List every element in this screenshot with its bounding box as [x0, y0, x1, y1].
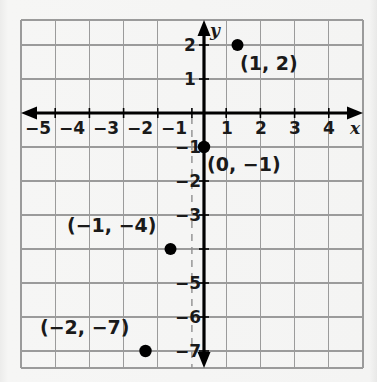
x-tick-label-neg5: −5 — [25, 120, 51, 137]
x-tick-label-1: 1 — [221, 120, 233, 137]
data-point-neg2-neg7[interactable] — [139, 345, 151, 357]
y-axis-name: y — [210, 22, 220, 39]
y-tick-label-neg5: −5 — [175, 275, 201, 292]
data-point-neg1-neg4[interactable] — [165, 243, 177, 255]
x-tick-label-neg1: −1 — [161, 120, 187, 137]
data-point-1-2[interactable] — [232, 39, 244, 51]
x-axis-name: x — [350, 120, 360, 137]
x-tick-label-4: 4 — [323, 120, 335, 137]
point-label-neg2-neg7: (−2, −7) — [40, 318, 129, 337]
x-tick-label-3: 3 — [289, 120, 301, 137]
y-tick-label-neg1: −1 — [175, 139, 201, 156]
point-label-1-2: (1, 2) — [240, 54, 298, 73]
y-tick-label-neg6: −6 — [175, 309, 201, 326]
point-label-0-neg1: (0, −1) — [207, 155, 281, 174]
y-axis-up-arrow — [198, 20, 211, 36]
point-label-neg1-neg4: (−1, −4) — [67, 216, 156, 235]
y-tick-label-neg2: −2 — [175, 173, 201, 190]
x-tick-label-neg4: −4 — [59, 120, 85, 137]
y-tick-label-neg3: −3 — [175, 207, 201, 224]
x-tick-label-2: 2 — [255, 120, 267, 137]
y-tick-label-2: 2 — [184, 37, 196, 54]
y-tick-label-neg7: −7 — [175, 343, 201, 360]
x-tick-label-neg3: −3 — [93, 120, 119, 137]
x-tick-label-neg2: −2 — [127, 120, 153, 137]
y-tick-label-1: 1 — [184, 71, 196, 88]
